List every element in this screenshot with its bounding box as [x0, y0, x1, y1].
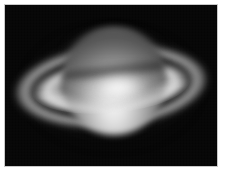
saturn-photo-frame	[4, 4, 218, 167]
saturn-system	[5, 5, 217, 166]
screenshot-viewport	[0, 0, 228, 178]
